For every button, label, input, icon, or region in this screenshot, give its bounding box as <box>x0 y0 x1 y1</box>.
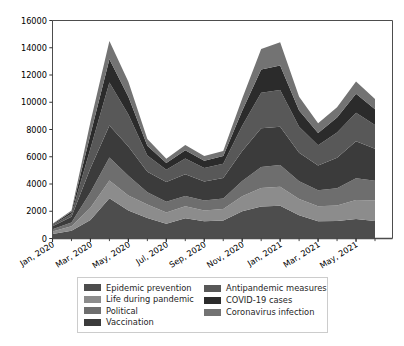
y-tick-label: 6000 <box>26 152 47 162</box>
legend-swatch-political <box>84 307 101 314</box>
x-tick-label: Mar, 2021 <box>281 239 321 269</box>
y-tick-label: 12000 <box>21 70 47 80</box>
y-tick-label: 8000 <box>26 125 47 135</box>
legend-entry[interactable]: Epidemic prevention <box>84 282 198 294</box>
legend-label: Political <box>106 307 138 315</box>
y-tick-label: 10000 <box>21 97 47 107</box>
y-tick-label: 2000 <box>26 206 47 216</box>
y-tick-label: 14000 <box>21 43 47 53</box>
x-tick-label: May, 2021 <box>318 239 360 270</box>
legend-label: Epidemic prevention <box>106 284 192 292</box>
legend-entry[interactable]: COVID-19 cases <box>204 294 322 306</box>
legend-entry[interactable]: Antipandemic measures <box>204 282 322 294</box>
legend-label: COVID-19 cases <box>226 296 292 304</box>
x-tick-label: Nov, 2020 <box>205 239 246 270</box>
legend-entry[interactable]: Political <box>84 305 198 317</box>
legend-swatch-covid-19-cases <box>204 297 221 304</box>
legend-label: Antipandemic measures <box>226 284 327 292</box>
legend-label: Coronavirus infection <box>226 308 314 316</box>
x-tick-label: Jan, 2020 <box>17 239 56 269</box>
legend-swatch-life-during-pandemic <box>84 296 101 303</box>
legend-entry[interactable]: Vaccination <box>84 317 198 329</box>
chart-figure: 0200040006000800010000120001400016000Jan… <box>0 0 404 346</box>
x-tick-label: Sep, 2020 <box>167 239 207 269</box>
legend-swatch-vaccination <box>84 319 101 326</box>
legend-label: Vaccination <box>106 318 154 326</box>
x-tick-label: Jul, 2020 <box>133 239 170 267</box>
legend-entry[interactable]: Coronavirus infection <box>204 306 322 318</box>
legend-entry[interactable]: Life during pandemic <box>84 294 198 306</box>
x-tick-label: Mar, 2020 <box>54 239 94 269</box>
legend-column-2: Antipandemic measuresCOVID-19 casesCoron… <box>204 282 322 328</box>
y-tick-label: 16000 <box>21 16 47 26</box>
legend-swatch-epidemic-prevention <box>84 284 101 291</box>
legend-swatch-antipandemic-measures <box>204 285 221 292</box>
x-tick-label: May, 2020 <box>90 239 132 270</box>
y-tick-label: 4000 <box>26 179 47 189</box>
legend-swatch-coronavirus-infection <box>204 309 221 316</box>
chart-legend: Epidemic preventionLife during pandemicP… <box>77 277 328 333</box>
legend-column-1: Epidemic preventionLife during pandemicP… <box>84 282 198 328</box>
legend-label: Life during pandemic <box>106 295 194 303</box>
x-tick-label: Jan, 2021 <box>245 239 284 269</box>
